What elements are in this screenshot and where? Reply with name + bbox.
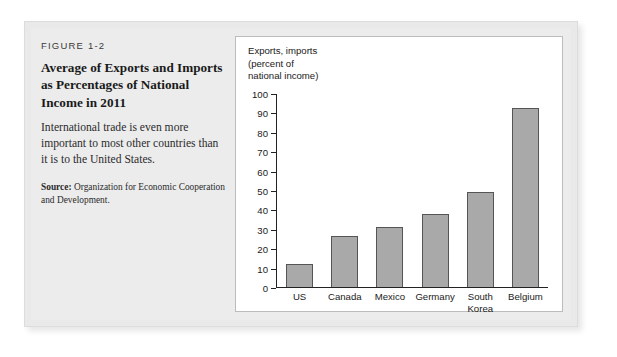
y-axis-tick-label: 10 xyxy=(257,263,268,274)
y-axis-tick-label: 90 xyxy=(257,108,268,119)
y-axis-tick-label: 0 xyxy=(263,283,268,294)
bar-slot xyxy=(367,94,412,287)
bar-slot xyxy=(322,94,367,287)
figure-description: International trade is even more importa… xyxy=(41,120,225,168)
y-axis-tick-label: 50 xyxy=(257,186,268,197)
figure-frame: FIGURE 1-2 Average of Exports and Import… xyxy=(24,21,578,327)
figure-title: Average of Exports and Imports as Percen… xyxy=(41,59,225,111)
y-axis-tick-label: 20 xyxy=(257,244,268,255)
y-axis-tick-mark xyxy=(271,210,276,211)
y-axis-tick-mark xyxy=(271,191,276,192)
y-axis-tick-label: 30 xyxy=(257,224,268,235)
y-axis-tick-mark xyxy=(271,288,276,289)
y-axis-tick-label: 40 xyxy=(257,205,268,216)
bar[interactable] xyxy=(512,108,539,287)
bar-slot xyxy=(413,94,458,287)
source-label: Source: xyxy=(41,182,72,192)
y-axis-tick-mark xyxy=(271,113,276,114)
y-axis-tick-mark xyxy=(271,172,276,173)
y-axis-tick-mark xyxy=(271,152,276,153)
bar-slot xyxy=(277,94,322,287)
bar[interactable] xyxy=(286,264,313,287)
x-axis-line xyxy=(276,287,548,288)
y-axis-tick-mark xyxy=(271,133,276,134)
figure-number: FIGURE 1-2 xyxy=(41,40,225,51)
bar[interactable] xyxy=(376,227,403,287)
figure-caption-panel: FIGURE 1-2 Average of Exports and Import… xyxy=(41,36,225,312)
x-axis-label: Belgium xyxy=(503,291,548,315)
y-axis-title: Exports, imports (percent of national in… xyxy=(248,45,318,83)
plot-area: 0102030405060708090100 xyxy=(276,94,548,288)
bar-series xyxy=(277,94,548,287)
y-axis-tick-mark xyxy=(271,249,276,250)
x-axis-label: South Korea xyxy=(458,291,503,315)
bar[interactable] xyxy=(331,236,358,287)
figure-inner-panel: FIGURE 1-2 Average of Exports and Import… xyxy=(31,28,571,320)
x-axis-label: Canada xyxy=(322,291,367,315)
y-axis-tick-label: 60 xyxy=(257,166,268,177)
x-axis-labels: USCanadaMexicoGermanySouth KoreaBelgium xyxy=(277,291,548,315)
y-axis-tick-label: 70 xyxy=(257,147,268,158)
x-axis-label: US xyxy=(277,291,322,315)
bar[interactable] xyxy=(467,192,494,287)
y-axis-tick-mark xyxy=(271,230,276,231)
chart-card: Exports, imports (percent of national in… xyxy=(235,36,563,312)
bar[interactable] xyxy=(422,214,449,287)
x-axis-label: Mexico xyxy=(367,291,412,315)
y-axis-tick-mark xyxy=(271,94,276,95)
y-axis-tick-label: 80 xyxy=(257,127,268,138)
x-axis-label: Germany xyxy=(413,291,458,315)
figure-source: Source: Organization for Economic Cooper… xyxy=(41,181,225,206)
y-axis-tick-mark xyxy=(271,269,276,270)
bar-slot xyxy=(503,94,548,287)
y-axis-tick-label: 100 xyxy=(252,89,268,100)
bar-slot xyxy=(458,94,503,287)
